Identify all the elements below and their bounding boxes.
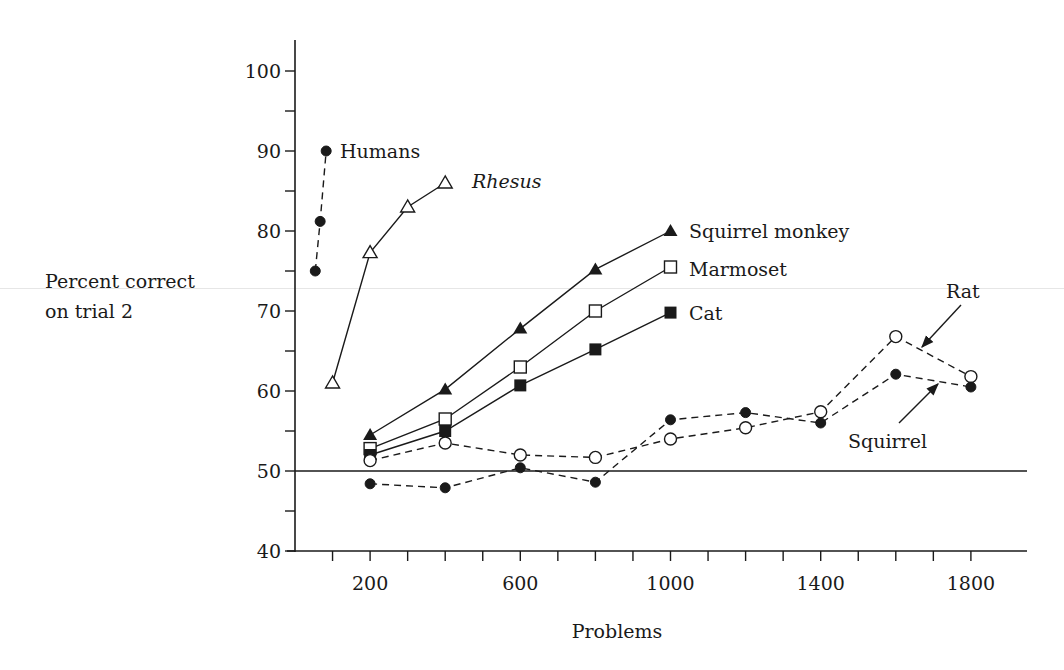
series-label: Humans bbox=[340, 140, 420, 162]
marker-filled-circle bbox=[321, 146, 331, 156]
series-label: Rhesus bbox=[471, 170, 542, 192]
marker-open-circle bbox=[364, 455, 376, 467]
marker-open-circle bbox=[740, 422, 752, 434]
y-tick-label: 50 bbox=[257, 460, 281, 482]
marker-filled-square bbox=[439, 425, 451, 437]
marker-open-square bbox=[589, 305, 601, 317]
marker-filled-square bbox=[665, 307, 677, 319]
y-tick-label: 90 bbox=[257, 140, 281, 162]
series-label: Squirrel monkey bbox=[689, 220, 849, 242]
marker-filled-circle bbox=[666, 415, 676, 425]
x-tick-label: 200 bbox=[352, 572, 388, 594]
marker-filled-circle bbox=[966, 382, 976, 392]
marker-filled-triangle bbox=[363, 428, 377, 440]
marker-filled-circle bbox=[816, 418, 826, 428]
series-line bbox=[370, 267, 670, 449]
marker-open-circle bbox=[665, 433, 677, 445]
x-tick-label: 1800 bbox=[947, 572, 995, 594]
marker-filled-circle bbox=[515, 463, 525, 473]
marker-filled-circle bbox=[310, 266, 320, 276]
learning-set-chart: 405060708090100200600100014001800 Humans… bbox=[0, 0, 1064, 670]
y-tick-label: 40 bbox=[257, 540, 281, 562]
marker-filled-triangle bbox=[664, 224, 678, 236]
marker-open-circle bbox=[439, 437, 451, 449]
marker-open-square bbox=[665, 261, 677, 273]
marker-filled-triangle bbox=[513, 322, 527, 334]
marker-open-triangle bbox=[326, 376, 340, 388]
annotation-arrow bbox=[899, 384, 938, 423]
x-axis-title: Problems bbox=[572, 620, 663, 642]
marker-open-triangle bbox=[401, 200, 415, 212]
series-rhesus bbox=[326, 176, 453, 388]
marker-filled-square bbox=[514, 379, 526, 391]
y-tick-label: 80 bbox=[257, 220, 281, 242]
marker-filled-triangle bbox=[588, 262, 602, 274]
series-line bbox=[333, 183, 446, 383]
marker-open-circle bbox=[589, 451, 601, 463]
annotation-arrow bbox=[922, 305, 961, 347]
marker-filled-circle bbox=[891, 369, 901, 379]
marker-filled-triangle bbox=[438, 382, 452, 394]
axes: 405060708090100200600100014001800 bbox=[245, 40, 1027, 594]
y-tick-label: 100 bbox=[245, 60, 281, 82]
marker-open-circle bbox=[890, 331, 902, 343]
x-tick-label: 600 bbox=[502, 572, 538, 594]
series-marmoset bbox=[364, 261, 676, 455]
marker-filled-circle bbox=[315, 216, 325, 226]
series-humans bbox=[310, 146, 331, 276]
x-tick-label: 1000 bbox=[646, 572, 694, 594]
labels-layer: HumansRhesusSquirrel monkeyMarmosetCatRa… bbox=[340, 140, 980, 452]
x-tick-label: 1400 bbox=[797, 572, 845, 594]
marker-filled-circle bbox=[440, 483, 450, 493]
marker-open-square bbox=[439, 413, 451, 425]
marker-filled-circle bbox=[590, 477, 600, 487]
series-line bbox=[315, 151, 326, 271]
marker-filled-square bbox=[589, 343, 601, 355]
y-axis-title-line1: Percent correct bbox=[45, 270, 195, 292]
marker-filled-circle bbox=[741, 408, 751, 418]
y-tick-label: 70 bbox=[257, 300, 281, 322]
marker-open-triangle bbox=[438, 176, 452, 188]
series-label: Rat bbox=[946, 280, 980, 302]
marker-open-circle bbox=[965, 371, 977, 383]
series-label: Marmoset bbox=[689, 258, 787, 280]
y-tick-label: 60 bbox=[257, 380, 281, 402]
marker-open-circle bbox=[815, 406, 827, 418]
marker-filled-circle bbox=[365, 479, 375, 489]
marker-open-circle bbox=[514, 449, 526, 461]
y-axis-title-line2: on trial 2 bbox=[45, 300, 133, 322]
series-label: Cat bbox=[689, 302, 723, 324]
marker-open-square bbox=[514, 361, 526, 373]
series-label: Squirrel bbox=[848, 430, 927, 452]
